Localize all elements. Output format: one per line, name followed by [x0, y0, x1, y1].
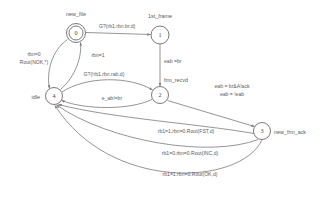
edge-4-to-0: [61, 43, 81, 90]
state-label-new-frm-ack: new_frm_ack: [274, 129, 306, 135]
edge-label-4-to-0: rbn=1: [91, 52, 104, 58]
state-label-new-file: new_file: [66, 11, 86, 17]
state-node-0-id: 0: [74, 29, 77, 36]
edge-0-to-4: [49, 40, 68, 89]
state-node-1-id: 1: [158, 31, 161, 38]
edge-label-3-to-4-inc: rb1=0.rbn=0.Rout(INC,d): [162, 150, 219, 156]
edge-label-0-to-1: G?(rb1.rbn.br.d): [99, 23, 136, 29]
state-node-2[interactable]: 2: [152, 87, 169, 104]
diagram-canvas: 0 1 2 3 4 new_file 1st_frame frm_recvd n…: [0, 0, 323, 197]
state-label-1st-frame: 1st_frame: [148, 13, 172, 19]
state-node-2-id: 2: [158, 91, 161, 98]
state-machine-diagram: 0 1 2 3 4 new_file 1st_frame frm_recvd n…: [0, 0, 323, 197]
edge-label-1-to-2: eab =br: [164, 58, 182, 64]
edge-label-4-to-2: G?(!rb1.rbn.rab.d): [84, 71, 125, 77]
edge-label-3-to-4-fst: rb1=1.rbn=0.Rout(FST,d): [158, 128, 215, 134]
edge-0-to-1: [86, 33, 151, 35]
state-node-4[interactable]: 4: [46, 88, 63, 105]
edge-4-to-2: [62, 80, 153, 92]
state-label-idle: idle: [32, 94, 40, 100]
edge-2-to-3: [168, 101, 255, 127]
edge-label-0-to-4-line1: rbn=0: [27, 51, 40, 57]
state-node-3[interactable]: 3: [254, 123, 271, 140]
edge-label-3-to-4-ok: rb1=1.rbn=0.Rout(OK,d): [163, 171, 218, 177]
state-node-1[interactable]: 1: [151, 26, 169, 44]
edge-label-0-to-4-line2: Rout(NOK,*): [20, 59, 49, 65]
edge-label-2-to-3-line2: eab = !eab: [220, 91, 244, 97]
edge-label-2-to-3-line1: eab = br&A!ack: [215, 83, 250, 89]
state-label-frm-recvd: frm_recvd: [164, 77, 188, 83]
state-node-3-id: 3: [260, 127, 263, 134]
edge-label-2-to-4: e_ab!=br: [102, 95, 123, 101]
state-node-0[interactable]: 0: [67, 24, 86, 43]
edge-3-to-4-fst: [59, 105, 255, 134]
edge-3-to-4-ok: [55, 106, 262, 174]
state-node-4-id: 4: [52, 92, 55, 99]
